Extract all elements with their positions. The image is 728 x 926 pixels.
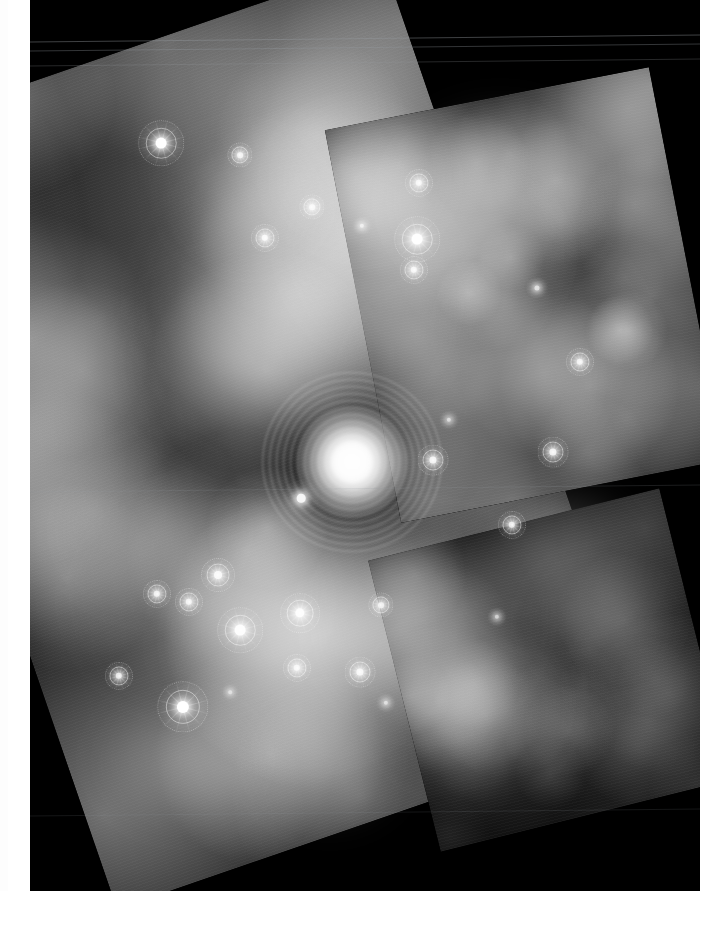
astronomical-image-frame: [30, 0, 700, 891]
central-saturated-cluster: [298, 408, 406, 516]
scanned-page: [0, 0, 728, 926]
page-margin-left-strip: [8, 0, 30, 891]
page-margin-bottom: [0, 891, 728, 926]
page-margin-right-strip: [700, 0, 728, 891]
page-margin-left: [0, 0, 8, 926]
